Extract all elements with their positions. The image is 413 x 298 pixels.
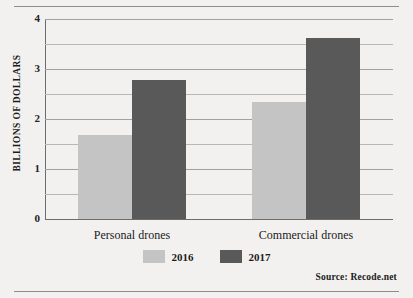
gridline-major [45,19,393,20]
y-axis-tick-labels: 01234 [8,19,40,219]
legend-item-2017[interactable]: 2017 [220,250,271,263]
plot-area [45,19,393,219]
bar-2016-personal-drones [78,135,132,219]
x-axis-line [45,219,393,220]
category-label: Commercial drones [236,228,376,243]
legend-swatch-icon [220,250,242,263]
category-label: Personal drones [62,228,202,243]
source-credit: Source: Recode.net [315,272,397,282]
legend-label: 2017 [249,251,271,263]
legend-item-2016[interactable]: 2016 [143,250,194,263]
y-tick-label: 4 [10,13,40,24]
chart-legend: 20162017 [0,250,413,263]
y-tick-label: 3 [10,63,40,74]
y-tick-label: 2 [10,113,40,124]
legend-label: 2016 [172,251,194,263]
bar-2017-personal-drones [132,80,186,219]
legend-swatch-icon [143,250,165,263]
top-divider-rule [14,6,399,7]
bottom-divider-rule [14,291,399,292]
bar-2017-commercial-drones [306,38,360,220]
y-tick-label: 1 [10,163,40,174]
bar-2016-commercial-drones [252,102,306,219]
chart-figure: BILLIONS OF DOLLARS 01234 Personal drone… [0,0,413,298]
y-tick-label: 0 [10,213,40,224]
